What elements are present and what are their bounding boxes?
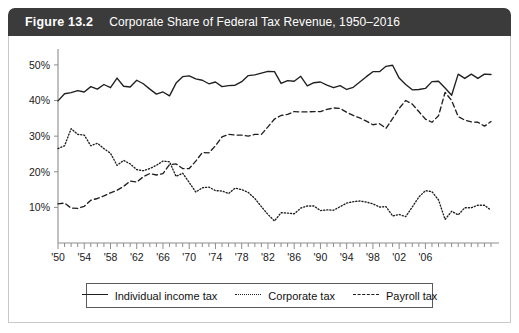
- x-tick-label: '06: [419, 251, 433, 263]
- legend-item: Corporate tax: [235, 290, 335, 302]
- y-tick-label: 10%: [29, 201, 50, 213]
- x-tick-label: '58: [104, 251, 118, 263]
- x-tick-label: '62: [130, 251, 144, 263]
- x-tick-label: '94: [340, 251, 354, 263]
- x-tick-label: '74: [209, 251, 223, 263]
- y-tick-label: 40%: [29, 94, 50, 106]
- x-tick-label: '82: [261, 251, 275, 263]
- figure-card: Figure 13.2 Corporate Share of Federal T…: [8, 8, 511, 323]
- chart-plot-area: 10%20%30%40%50% '50'54'58'62'66'70'74'78…: [9, 36, 510, 321]
- figure-body: 10%20%30%40%50% '50'54'58'62'66'70'74'78…: [8, 36, 511, 323]
- y-tick-label: 30%: [29, 130, 50, 142]
- x-tick-label: '70: [182, 251, 196, 263]
- x-tick-label: '90: [314, 251, 328, 263]
- x-tick-label: '86: [287, 251, 301, 263]
- legend-swatch-dotted-icon: [235, 294, 261, 297]
- legend-item: Individual income tax: [82, 290, 218, 302]
- x-tick-label: '02: [392, 251, 406, 263]
- legend-item: Payroll tax: [353, 290, 437, 302]
- figure-title: Corporate Share of Federal Tax Revenue, …: [109, 15, 400, 29]
- x-tick-label: '78: [235, 251, 249, 263]
- figure-number: Figure 13.2: [25, 15, 93, 29]
- y-tick-label: 20%: [29, 166, 50, 178]
- x-tick-label: '66: [156, 251, 170, 263]
- chart-legend: Individual income taxCorporate taxPayrol…: [86, 283, 433, 308]
- legend-label: Corporate tax: [268, 290, 335, 302]
- chart-series-group: [58, 65, 491, 221]
- series-solid: [58, 65, 491, 101]
- legend-swatch-dashed-icon: [353, 294, 379, 297]
- series-dotted: [58, 129, 491, 221]
- y-axis: 10%20%30%40%50%: [29, 49, 58, 243]
- legend-label: Payroll tax: [386, 290, 437, 302]
- figure-header: Figure 13.2 Corporate Share of Federal T…: [8, 8, 511, 36]
- x-tick-label: '50: [51, 251, 65, 263]
- line-chart: 10%20%30%40%50% '50'54'58'62'66'70'74'78…: [9, 36, 510, 321]
- legend-swatch-solid-icon: [82, 294, 108, 297]
- x-tick-label: '54: [77, 251, 91, 263]
- x-tick-label: '98: [366, 251, 380, 263]
- y-tick-label: 50%: [29, 59, 50, 71]
- legend-label: Individual income tax: [115, 290, 218, 302]
- x-axis: '50'54'58'62'66'70'74'78'82'86'90'94'98'…: [51, 243, 499, 263]
